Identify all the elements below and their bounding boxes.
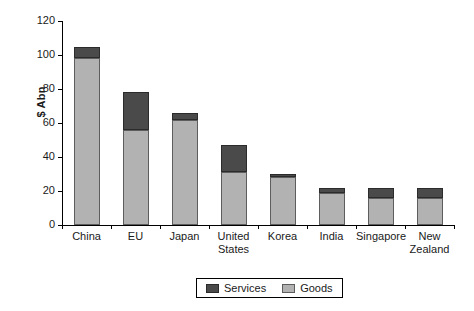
- x-axis-label: EU: [111, 230, 160, 243]
- x-axis-label: China: [62, 230, 111, 243]
- x-axis-labels: ChinaEUJapanUnited StatesKoreaIndiaSinga…: [62, 230, 454, 266]
- y-tick-label: 100: [37, 48, 55, 60]
- bar-segment-services: [270, 174, 296, 177]
- bar-segment-services: [172, 113, 198, 120]
- y-tick-label: 120: [37, 14, 55, 26]
- x-tick-mark: [356, 225, 357, 229]
- bar-segment-goods: [221, 172, 247, 225]
- bar-segment-services: [417, 188, 443, 198]
- bar-group: [270, 174, 296, 225]
- legend-entry: Goods: [282, 282, 332, 294]
- legend-swatch-icon: [282, 284, 295, 293]
- y-tick-label: 20: [43, 184, 55, 196]
- y-tick-label: 0: [49, 218, 55, 230]
- bar-segment-services: [319, 188, 345, 193]
- legend-label: Services: [224, 282, 266, 294]
- bar-segment-goods: [417, 198, 443, 225]
- x-tick-mark: [62, 225, 63, 229]
- plot-area: 020406080100120: [62, 21, 454, 225]
- bar-segment-goods: [319, 193, 345, 225]
- bar-segment-services: [123, 92, 149, 129]
- x-axis-label: India: [307, 230, 356, 243]
- legend-entry: Services: [206, 282, 266, 294]
- y-tick-label: 40: [43, 150, 55, 162]
- bar-segment-goods: [123, 130, 149, 225]
- y-tick-label: 80: [43, 82, 55, 94]
- bar-segment-goods: [270, 177, 296, 225]
- bar-group: [172, 113, 198, 225]
- stacked-bar-chart: $ Abn 020406080100120 ChinaEUJapanUnited…: [0, 0, 474, 311]
- x-tick-mark: [160, 225, 161, 229]
- bar-segment-services: [74, 47, 100, 59]
- bar-group: [417, 188, 443, 225]
- x-axis-label: New Zealand: [405, 230, 454, 256]
- bar-segment-goods: [368, 198, 394, 225]
- x-tick-mark: [258, 225, 259, 229]
- legend-swatch-icon: [206, 284, 219, 293]
- bar-segment-goods: [74, 58, 100, 225]
- chart-legend: ServicesGoods: [196, 278, 343, 298]
- y-tick-label: 60: [43, 116, 55, 128]
- x-axis-label: Korea: [258, 230, 307, 243]
- bar-group: [123, 92, 149, 225]
- x-axis-label: United States: [209, 230, 258, 256]
- x-tick-mark: [454, 225, 455, 229]
- legend-label: Goods: [300, 282, 332, 294]
- bars-layer: [62, 21, 454, 225]
- x-tick-mark: [405, 225, 406, 229]
- bar-group: [368, 188, 394, 225]
- bar-group: [319, 188, 345, 225]
- bar-segment-services: [221, 145, 247, 172]
- x-tick-mark: [209, 225, 210, 229]
- x-axis-label: Singapore: [356, 230, 405, 243]
- bar-segment-goods: [172, 120, 198, 225]
- x-tick-mark: [111, 225, 112, 229]
- x-tick-mark: [307, 225, 308, 229]
- bar-group: [221, 145, 247, 225]
- bar-group: [74, 47, 100, 226]
- x-axis-label: Japan: [160, 230, 209, 243]
- bar-segment-services: [368, 188, 394, 198]
